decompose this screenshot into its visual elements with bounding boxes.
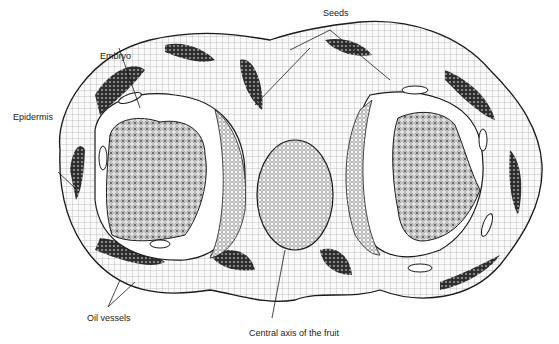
central-axis (257, 140, 333, 250)
label-embryo: Embryo (100, 51, 131, 61)
label-epidermis: Epidermis (13, 112, 53, 122)
left-embryo (107, 118, 207, 240)
label-central-axis: Central axis of the fruit (249, 328, 339, 338)
fruit-cross-section-illustration (0, 0, 559, 344)
label-oil-vessels: Oil vessels (87, 313, 131, 323)
label-seeds: Seeds (323, 8, 349, 18)
